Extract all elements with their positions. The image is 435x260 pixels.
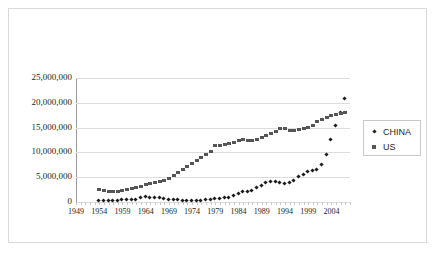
data-point-us [278, 127, 282, 130]
data-point-china [333, 123, 337, 127]
data-point-us [97, 188, 101, 191]
data-point-china [217, 196, 221, 200]
x-axis-tick-mark [252, 202, 253, 205]
data-point-china [301, 172, 305, 176]
y-axis-tick-label: 0 [68, 196, 73, 206]
data-point-us [292, 129, 296, 132]
x-axis-tick-mark [308, 202, 309, 205]
data-point-us [144, 183, 148, 186]
data-point-china [292, 178, 296, 182]
data-point-china [152, 195, 156, 199]
x-axis-tick-mark [304, 202, 305, 205]
data-point-us [329, 114, 333, 117]
y-axis-tick-label: 5,000,000 [36, 171, 72, 181]
data-point-us [315, 120, 319, 123]
data-point-us [320, 118, 324, 121]
data-point-us [297, 128, 301, 131]
x-axis-tick-mark [201, 202, 202, 205]
x-axis-tick-mark [81, 202, 82, 205]
data-point-us [325, 116, 329, 119]
x-axis-tick-label: 2004 [315, 207, 347, 216]
data-point-us [107, 190, 111, 193]
data-point-us [111, 190, 115, 193]
data-point-us [153, 181, 157, 184]
data-point-china [268, 180, 272, 184]
legend-item-us[interactable]: US [364, 139, 420, 154]
data-point-us [288, 129, 292, 132]
data-point-china [138, 196, 142, 200]
x-axis-tick-mark [141, 202, 142, 205]
data-point-us [311, 124, 315, 127]
data-point-us [306, 126, 310, 129]
data-point-china [203, 197, 207, 201]
data-point-china [287, 181, 291, 185]
x-axis-tick-mark [294, 202, 295, 205]
legend-label-china: CHINA [383, 127, 411, 137]
data-point-us [260, 136, 264, 139]
data-point-us [134, 186, 138, 189]
x-axis-tick-mark [169, 202, 170, 205]
data-point-us [237, 139, 241, 142]
data-point-us [227, 142, 231, 145]
data-point-us [339, 112, 343, 115]
data-point-us [162, 179, 166, 182]
legend-item-china[interactable]: CHINA [364, 124, 420, 139]
data-point-china [259, 183, 263, 187]
data-point-us [172, 174, 176, 177]
gridline [76, 78, 350, 79]
x-axis-tick-mark [350, 202, 351, 205]
data-point-us [204, 153, 208, 156]
x-axis-tick-mark [276, 202, 277, 205]
data-point-us [148, 182, 152, 185]
data-point-china [227, 195, 231, 199]
data-point-us [199, 156, 203, 159]
data-point-us [213, 144, 217, 147]
data-point-china [343, 96, 347, 100]
data-point-us [269, 132, 273, 135]
x-axis-tick-mark [146, 202, 147, 205]
data-point-china [236, 191, 240, 195]
x-axis-tick-mark [95, 202, 96, 205]
x-axis-tick-mark [136, 202, 137, 205]
legend-label-us: US [383, 142, 396, 152]
x-axis-tick-mark [132, 202, 133, 205]
gridline [76, 177, 350, 178]
data-point-us [120, 189, 124, 192]
data-point-us [302, 127, 306, 130]
x-axis-tick-mark [327, 202, 328, 205]
x-axis-tick-mark [122, 202, 123, 205]
data-point-us [167, 177, 171, 180]
data-point-us [274, 130, 278, 133]
data-point-us [255, 138, 259, 141]
x-axis-tick-mark [336, 202, 337, 205]
x-axis-tick-mark [322, 202, 323, 205]
data-point-china [254, 185, 258, 189]
data-point-us [218, 144, 222, 147]
data-point-us [190, 162, 194, 165]
chart-container: 05,000,00010,000,00015,000,00020,000,000… [0, 0, 435, 260]
x-axis-tick-mark [243, 202, 244, 205]
x-axis-tick-mark [104, 202, 105, 205]
data-point-us [185, 165, 189, 168]
data-point-us [232, 141, 236, 144]
data-point-us [176, 171, 180, 174]
data-point-us [223, 143, 227, 146]
gridline [76, 103, 350, 104]
x-axis-tick-mark [220, 202, 221, 205]
x-axis-tick-mark [229, 202, 230, 205]
x-axis-tick-mark [215, 202, 216, 205]
x-axis-tick-mark [345, 202, 346, 205]
x-axis-tick-mark [299, 202, 300, 205]
data-point-us [209, 150, 213, 153]
data-point-us [241, 138, 245, 141]
data-point-us [102, 189, 106, 192]
x-axis-tick-mark [127, 202, 128, 205]
x-axis-tick-mark [99, 202, 100, 205]
data-point-us [343, 111, 347, 114]
x-axis-tick-mark [183, 202, 184, 205]
data-point-china [213, 196, 217, 200]
x-axis-tick-mark [331, 202, 332, 205]
data-point-us [334, 113, 338, 116]
data-point-china [329, 137, 333, 141]
x-axis-tick-mark [160, 202, 161, 205]
